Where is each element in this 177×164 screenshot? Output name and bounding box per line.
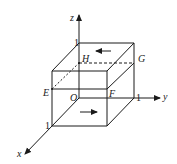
x-axis-label: x	[16, 148, 22, 159]
y-axis-label: y	[162, 91, 168, 102]
origin-label: O	[70, 92, 77, 103]
cube-diagram: z y x 1 1 1 H G E F O	[0, 0, 177, 164]
z-axis-label: z	[69, 12, 74, 23]
x-tick-1: 1	[45, 120, 50, 131]
point-H-dot	[78, 62, 80, 64]
point-E-label: E	[42, 87, 49, 98]
y-tick-1: 1	[136, 92, 141, 103]
point-H-label: H	[81, 53, 90, 64]
point-F-label: F	[108, 88, 116, 99]
point-E-dot	[51, 88, 53, 90]
point-G-label: G	[138, 53, 145, 64]
z-tick-1: 1	[74, 37, 79, 48]
cube-edge-bottom-right	[107, 98, 134, 126]
